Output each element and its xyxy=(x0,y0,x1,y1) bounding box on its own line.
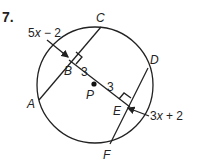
length-pb: 3 xyxy=(81,65,88,79)
expression-5x-minus-2: 5x − 2 xyxy=(28,26,61,40)
label-e: E xyxy=(113,104,122,118)
label-f: F xyxy=(103,148,111,162)
geometry-figure: 7. C D A B P E F 3 3 5x − 2 3x + 2 xyxy=(0,0,199,166)
segment-be xyxy=(69,60,130,107)
label-c: C xyxy=(96,11,105,25)
expression-3x-plus-2: 3x + 2 xyxy=(150,109,183,123)
problem-number: 7. xyxy=(2,9,14,25)
length-pe: 3 xyxy=(107,80,114,94)
label-d: D xyxy=(150,53,159,67)
center-point-p xyxy=(91,81,96,86)
right-angle-e xyxy=(119,93,131,99)
label-b: B xyxy=(64,64,72,78)
right-angle-b xyxy=(76,52,82,64)
label-a: A xyxy=(26,97,35,111)
label-p: P xyxy=(86,88,94,102)
